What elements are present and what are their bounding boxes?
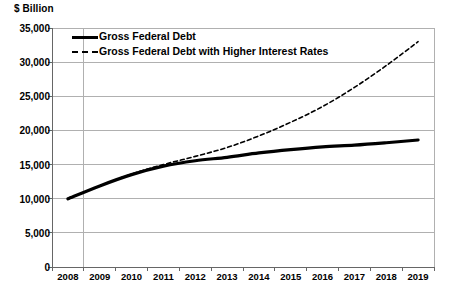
x-axis-tick-label: 2019 (408, 271, 429, 282)
x-axis-tick-label: 2011 (153, 271, 174, 282)
x-axis-tick-label: 2010 (121, 271, 142, 282)
y-axis-tick-label: 35,000 (4, 23, 50, 34)
legend-swatch-dashed-line-icon (72, 51, 98, 53)
x-axis-tick-label: 2014 (248, 271, 269, 282)
x-axis-tick-label: 2016 (312, 271, 333, 282)
x-axis-tick-label: 2018 (376, 271, 397, 282)
legend-swatch-solid-line-icon (72, 36, 98, 39)
legend-item-gross-federal-debt: Gross Federal Debt (72, 29, 392, 44)
chart-container: $ Billion 05,00010,00015,00020,00025,000… (0, 0, 453, 298)
x-axis-tick-label: 2017 (344, 271, 365, 282)
y-axis-tick-label: 30,000 (4, 57, 50, 68)
y-axis-tick-label: 0 (4, 262, 50, 273)
x-axis-tick-label: 2013 (217, 271, 238, 282)
y-axis-tick-label: 15,000 (4, 159, 50, 170)
y-axis-tick-label: 5,000 (4, 227, 50, 238)
x-axis-tick-label: 2008 (57, 271, 78, 282)
y-axis-tick-label: 20,000 (4, 125, 50, 136)
legend-label: Gross Federal Debt with Higher Interest … (99, 44, 328, 59)
x-axis-tick-label: 2015 (280, 271, 301, 282)
x-axis-tick-label: 2012 (185, 271, 206, 282)
x-axis-tick-label: 2009 (89, 271, 110, 282)
y-axis-tick-label: 10,000 (4, 193, 50, 204)
y-axis-tick-label: 25,000 (4, 91, 50, 102)
y-axis-tick-labels: 05,00010,00015,00020,00025,00030,00035,0… (0, 0, 50, 298)
chart-legend: Gross Federal Debt Gross Federal Debt wi… (72, 29, 392, 59)
legend-label: Gross Federal Debt (99, 29, 196, 44)
legend-item-gross-federal-debt-higher-rates: Gross Federal Debt with Higher Interest … (72, 44, 392, 59)
